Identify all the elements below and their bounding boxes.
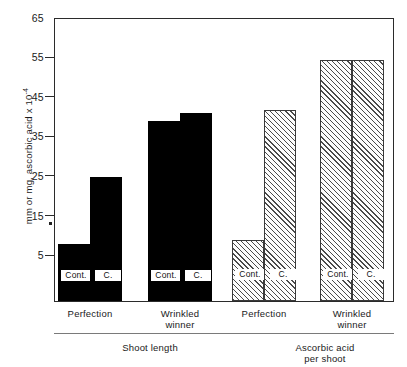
section-divider bbox=[54, 333, 394, 334]
y-tick-label-15: 15 bbox=[4, 210, 44, 222]
bar-label-c: C. bbox=[270, 269, 296, 280]
bar-shootlength-wrinkled-c: C. bbox=[180, 113, 212, 301]
bar-label-c: C. bbox=[185, 270, 211, 281]
section-label-ascorbic-line1: Ascorbic acid bbox=[270, 342, 380, 353]
bar-label-cont: Cont. bbox=[323, 269, 353, 280]
bar-ascorbic-perfection-c: C. bbox=[264, 110, 296, 301]
group-label-perfection-ascorbic: Perfection bbox=[224, 308, 304, 319]
y-tick-label-35: 35 bbox=[4, 130, 44, 142]
axis-speck bbox=[49, 222, 52, 225]
y-tick-mark-55 bbox=[45, 57, 54, 58]
group-label-wrinkled-shootlength-line2: winner bbox=[140, 319, 220, 330]
y-tick-label-5: 5 bbox=[4, 249, 44, 261]
y-tick-label-45: 45 bbox=[4, 91, 44, 103]
section-label-ascorbic-line2: per shoot bbox=[270, 353, 380, 364]
y-tick-label-55: 55 bbox=[4, 51, 44, 63]
y-tick-label-25: 25 bbox=[4, 170, 44, 182]
group-label-perfection-shootlength: Perfection bbox=[50, 308, 130, 319]
bar-ascorbic-perfection-cont: Cont. bbox=[232, 240, 264, 301]
bar-label-cont: Cont. bbox=[61, 270, 91, 281]
y-axis-label: mm or mg, ascorbic acid x 10-4 bbox=[22, 56, 34, 256]
bar-label-c: C. bbox=[358, 269, 384, 280]
bar-chart-figure: mm or mg, ascorbic acid x 10-4 65 55 45 … bbox=[0, 0, 407, 367]
y-tick-label-65: 65 bbox=[4, 12, 44, 24]
y-axis-label-text: mm or mg, ascorbic acid x 10 bbox=[23, 95, 34, 225]
y-tick-mark-5 bbox=[45, 255, 54, 256]
bar-shootlength-perfection-cont: Cont. bbox=[58, 244, 90, 301]
section-label-shoot-length: Shoot length bbox=[100, 342, 200, 353]
bar-label-cont: Cont. bbox=[235, 269, 265, 280]
bar-shootlength-perfection-c: C. bbox=[90, 177, 122, 301]
y-tick-mark-35 bbox=[45, 136, 54, 137]
group-label-wrinkled-shootlength-line1: Wrinkled bbox=[140, 308, 220, 319]
plot-area: Cont. C. Cont. C. Cont. C. Cont. C. bbox=[54, 18, 394, 302]
group-label-wrinkled-ascorbic-line2: winner bbox=[312, 319, 392, 330]
y-tick-mark-45 bbox=[45, 96, 54, 97]
bar-label-cont: Cont. bbox=[151, 270, 181, 281]
y-tick-mark-25 bbox=[45, 175, 54, 176]
bar-ascorbic-wrinkled-cont: Cont. bbox=[320, 60, 352, 301]
bar-label-c: C. bbox=[95, 270, 121, 281]
group-label-wrinkled-ascorbic-line1: Wrinkled bbox=[312, 308, 392, 319]
y-tick-mark-15 bbox=[45, 215, 54, 216]
bar-ascorbic-wrinkled-c: C. bbox=[352, 60, 384, 301]
bar-shootlength-wrinkled-cont: Cont. bbox=[148, 121, 180, 301]
